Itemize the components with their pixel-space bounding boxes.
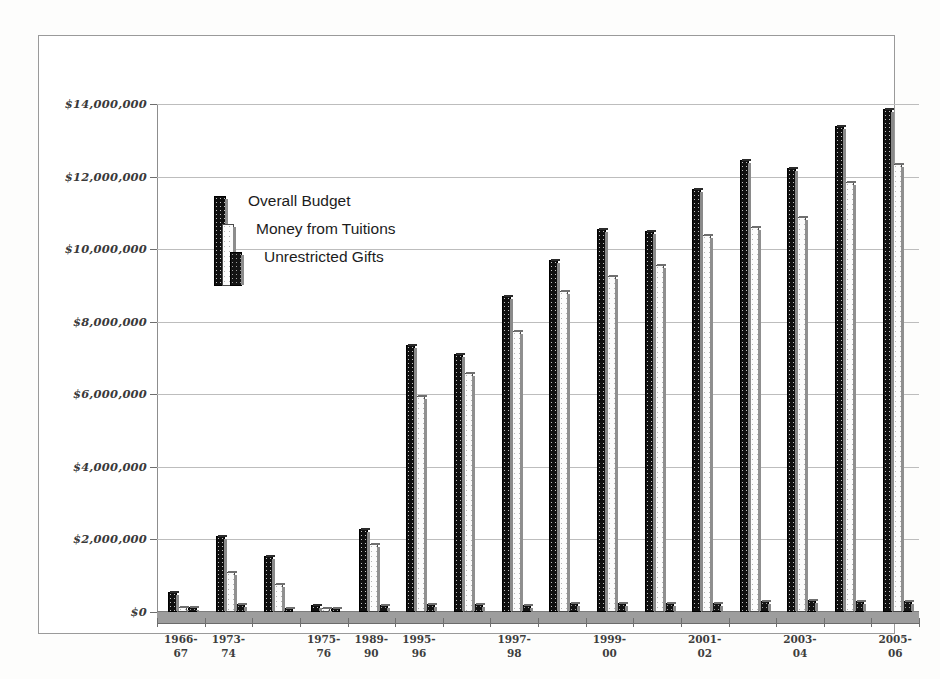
bar-shade — [367, 532, 370, 611]
bar-shade — [615, 279, 618, 611]
bar-overall-budget — [597, 229, 606, 612]
bar-cap — [381, 604, 390, 606]
bar-shade — [186, 610, 189, 611]
bar-cap — [428, 603, 437, 605]
bar-money-from-tuitions — [321, 608, 330, 612]
bar-unrestricted-gifts — [807, 600, 816, 612]
x-axis-tick-label: 1989-90 — [355, 632, 389, 660]
bar-cap — [466, 372, 475, 374]
bar-shade — [482, 607, 485, 611]
bar-shade — [758, 230, 761, 611]
x-axis-tick — [157, 618, 158, 627]
bar-cap — [418, 395, 427, 397]
bar-cap — [561, 290, 570, 292]
bar-overall-budget — [645, 231, 654, 612]
bar-cap — [504, 295, 513, 297]
y-axis-tick-label: $10,000,000 — [65, 242, 147, 256]
bar-shade — [663, 268, 666, 611]
bar-cap — [619, 602, 628, 604]
bar-unrestricted-gifts — [617, 603, 626, 612]
bar-cap — [752, 226, 761, 228]
bar-shade — [272, 559, 275, 611]
bar-cap — [742, 159, 751, 161]
bar-group — [264, 104, 293, 612]
bar-overall-budget — [359, 529, 368, 612]
bar-overall-budget — [264, 556, 273, 612]
y-axis-tick-label: $14,000,000 — [65, 97, 147, 111]
x-axis-tick — [776, 618, 777, 627]
x-axis-tick-label: 1999-00 — [593, 632, 627, 660]
plot-area: $0$2,000,000$4,000,000$6,000,000$8,000,0… — [157, 104, 919, 612]
bar-cap — [857, 600, 866, 602]
y-axis-tick-label: $12,000,000 — [65, 170, 147, 184]
bar-unrestricted-gifts — [426, 604, 435, 612]
bar-shade — [863, 604, 866, 611]
bar-cap — [313, 604, 322, 606]
bar-cap — [323, 607, 332, 609]
bar-cap — [609, 275, 618, 277]
x-axis-tick — [490, 618, 491, 627]
bar-shade — [911, 604, 914, 611]
bar-unrestricted-gifts — [188, 607, 197, 612]
bar-overall-budget — [454, 354, 463, 612]
bar-cap — [551, 259, 560, 261]
bar-shade — [605, 232, 608, 611]
bar-money-from-tuitions — [512, 331, 521, 612]
x-axis-tick — [681, 618, 682, 627]
bar-unrestricted-gifts — [855, 601, 864, 612]
bar-shade — [577, 606, 580, 611]
x-axis-tick-label: 1995-96 — [402, 632, 436, 660]
bar-cap — [514, 330, 523, 332]
x-axis-tick — [538, 618, 539, 627]
bar-group — [216, 104, 245, 612]
bar-shade — [462, 357, 465, 611]
bar-shade — [625, 606, 628, 611]
bar-group — [787, 104, 816, 612]
bar-shade — [434, 607, 437, 611]
bar-cap — [228, 571, 237, 573]
bar-cap — [667, 602, 676, 604]
bar-money-from-tuitions — [464, 373, 473, 612]
x-axis-tick — [633, 618, 634, 627]
bar-cap — [266, 555, 275, 557]
y-axis-tick-label: $0 — [131, 605, 147, 619]
bar-shade — [520, 334, 523, 611]
x-axis-tick-label: 1997-98 — [497, 632, 531, 660]
legend-label-unrestricted-gifts: Unrestricted Gifts — [264, 248, 384, 266]
bar-shade — [196, 610, 199, 611]
bar-money-from-tuitions — [893, 164, 902, 612]
y-axis-tick — [150, 104, 157, 105]
bar-money-from-tuitions — [750, 227, 759, 612]
bar-shade — [424, 399, 427, 611]
bar-series-container — [157, 104, 919, 612]
bar-group — [835, 104, 864, 612]
bar-cap — [905, 600, 914, 602]
bar-group — [740, 104, 769, 612]
y-axis-tick — [150, 249, 157, 250]
scanned-page: $0$2,000,000$4,000,000$6,000,000$8,000,0… — [0, 0, 940, 679]
bar-overall-budget — [835, 126, 844, 612]
bar-cap — [571, 602, 580, 604]
bar-shade — [653, 234, 656, 611]
bar-shade — [700, 192, 703, 611]
legend-label-money-from-tuitions: Money from Tuitions — [256, 220, 396, 238]
bar-overall-budget — [549, 260, 558, 612]
bar-cap — [657, 264, 666, 266]
bar-group — [549, 104, 578, 612]
bar-overall-budget — [883, 109, 892, 612]
x-axis-tick — [919, 618, 920, 627]
bar-shade — [510, 299, 513, 611]
y-axis-tick — [150, 467, 157, 468]
bar-shade — [768, 604, 771, 611]
y-axis-tick-label: $8,000,000 — [73, 315, 147, 329]
bar-unrestricted-gifts — [522, 605, 531, 612]
bar-shade — [891, 112, 894, 611]
x-axis-tick — [395, 618, 396, 627]
bar-shade — [673, 606, 676, 611]
bar-shade — [720, 606, 723, 611]
bar-cap — [809, 599, 818, 601]
bar-group — [692, 104, 721, 612]
bar-overall-budget — [216, 536, 225, 612]
bar-overall-budget — [502, 296, 511, 612]
x-axis-tick-label: 2001-02 — [688, 632, 722, 660]
